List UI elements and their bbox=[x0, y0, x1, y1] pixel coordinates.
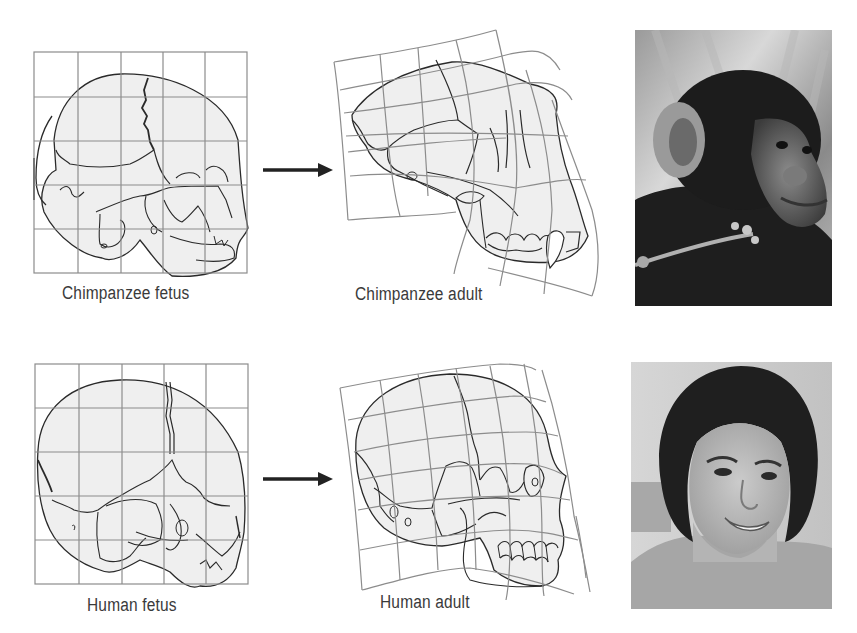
chimpanzee-fetus-skull-illustration bbox=[0, 0, 260, 290]
chimpanzee-adult-label: Chimpanzee adult bbox=[355, 284, 483, 305]
chimpanzee-adult-skull-illustration bbox=[330, 40, 600, 310]
chimpanzee-photo bbox=[635, 30, 832, 306]
arrow-right-icon bbox=[262, 469, 336, 489]
human-fetus-skull-illustration bbox=[0, 320, 260, 630]
chimpanzee-adult-skull-diagram: Chimpanzee adult bbox=[330, 40, 600, 310]
human-fetus-skull-diagram: Human fetus bbox=[0, 320, 260, 630]
human-adult-skull-illustration bbox=[330, 360, 600, 620]
human-fetus-label: Human fetus bbox=[87, 595, 177, 616]
human-adult-label: Human adult bbox=[380, 592, 470, 613]
chimpanzee-fetus-label: Chimpanzee fetus bbox=[62, 283, 190, 304]
chimpanzee-fetus-skull-diagram: Chimpanzee fetus bbox=[0, 0, 260, 290]
arrow-right-icon bbox=[262, 160, 336, 180]
human-photo bbox=[631, 362, 832, 609]
human-adult-skull-diagram: Human adult bbox=[330, 360, 600, 620]
